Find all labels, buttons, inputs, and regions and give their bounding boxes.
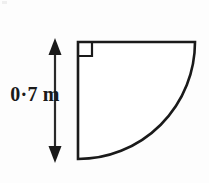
- arrow-down-icon: [49, 146, 62, 163]
- arrow-up-icon: [49, 38, 62, 55]
- geometry-figure: 0·7 m: [0, 0, 209, 183]
- quarter-circle-sector: [78, 42, 195, 159]
- dimension-label: 0·7 m: [8, 84, 62, 104]
